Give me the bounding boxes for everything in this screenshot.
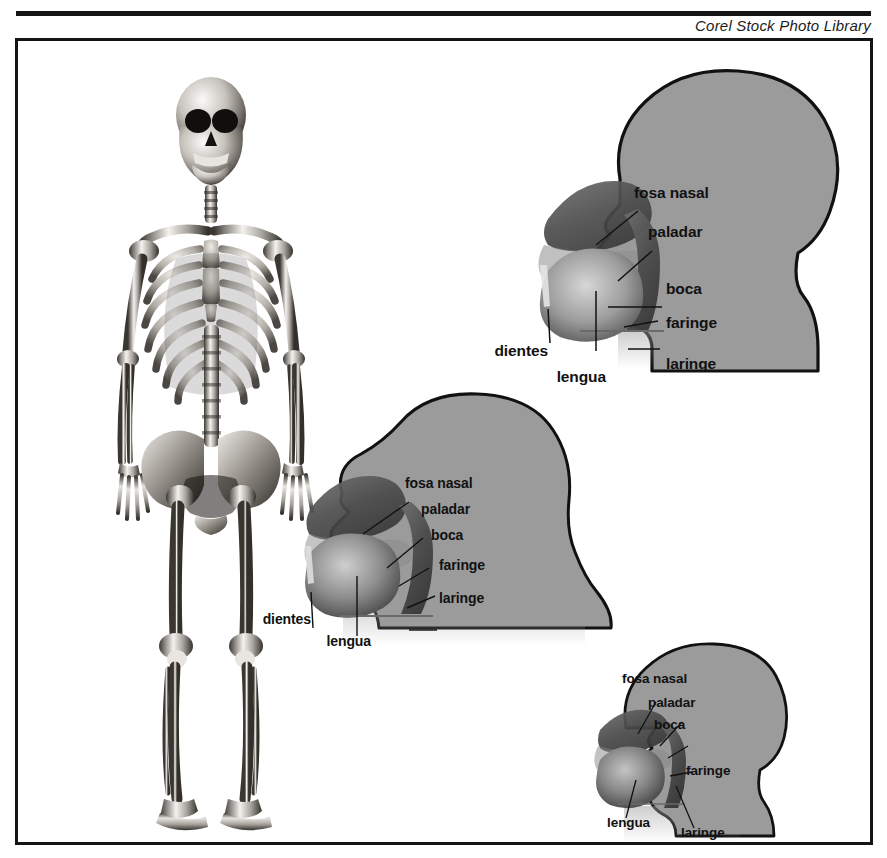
label-lengua: lengua xyxy=(326,634,371,648)
plate-frame: fosa nasal paladar boca faringe laringe … xyxy=(15,38,873,845)
label-dientes: dientes xyxy=(494,343,548,359)
label-boca: boca xyxy=(654,718,685,732)
label-fosa-nasal: fosa nasal xyxy=(622,672,687,686)
label-laringe: laringe xyxy=(439,591,484,605)
head-medium-figure: fosa nasal paladar boca faringe laringe … xyxy=(283,386,643,646)
plate-page: Corel Stock Photo Library xyxy=(0,0,887,858)
label-paladar: paladar xyxy=(648,224,702,240)
label-faringe: faringe xyxy=(666,315,717,331)
label-fosa-nasal: fosa nasal xyxy=(634,185,709,201)
label-laringe: laringe xyxy=(681,826,725,840)
label-lengua: lengua xyxy=(607,816,650,830)
label-boca: boca xyxy=(666,281,702,297)
skeleton-foot-right xyxy=(220,799,272,830)
label-paladar: paladar xyxy=(421,502,470,516)
tongue xyxy=(305,533,400,617)
label-fosa-nasal: fosa nasal xyxy=(405,476,472,490)
skeleton-leg-right xyxy=(220,485,272,830)
label-faringe: faringe xyxy=(686,764,730,778)
head-small-illustration xyxy=(578,636,870,841)
skeleton-foot-left xyxy=(156,799,208,830)
head-small-figure: fosa nasal paladar boca faringe lengua l… xyxy=(578,636,870,841)
skeleton-spine-lumbar xyxy=(202,325,221,447)
label-laringe: laringe xyxy=(666,356,716,372)
label-boca: boca xyxy=(431,528,463,542)
label-faringe: faringe xyxy=(439,558,485,572)
credit-line: Corel Stock Photo Library xyxy=(695,17,871,34)
label-paladar: paladar xyxy=(648,696,695,710)
header-rule xyxy=(16,11,871,16)
skeleton-spine-cervical xyxy=(204,185,218,223)
plate-inner: fosa nasal paladar boca faringe laringe … xyxy=(18,41,870,842)
label-lengua: lengua xyxy=(557,369,606,385)
label-dientes: dientes xyxy=(263,612,311,626)
skeleton-skull xyxy=(176,77,246,185)
head-large-figure: fosa nasal paladar boca faringe laringe … xyxy=(488,59,870,369)
skeleton-leg-left xyxy=(156,485,208,830)
